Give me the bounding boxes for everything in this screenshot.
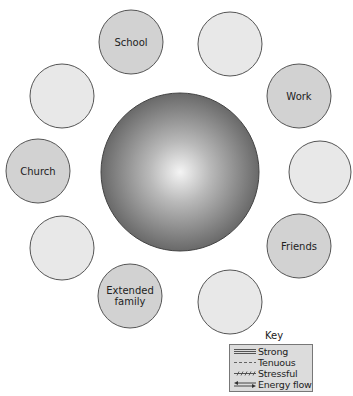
strong-line-icon (233, 347, 257, 356)
node-work: Work (267, 64, 331, 128)
key-legend: Strong Tenuous Stressful Energy flow (229, 344, 313, 392)
tenuous-line-icon (233, 358, 257, 367)
key-item-stressful: Stressful (233, 368, 297, 379)
node-extended-family: Extendedfamily (98, 264, 162, 328)
ecomap-diagram: SchoolWorkFriendsExtendedfamilyChurch (0, 0, 353, 396)
node-label: School (114, 37, 147, 48)
node-label: Work (286, 91, 312, 102)
node-blank-bottom-right (198, 270, 262, 334)
key-label-strong: Strong (258, 346, 288, 357)
key-item-strong: Strong (233, 346, 288, 357)
energy-flow-arrow-icon (233, 380, 257, 389)
key-label-stressful: Stressful (258, 368, 297, 379)
key-title: Key (265, 330, 283, 341)
node-circle (30, 64, 94, 128)
key-label-tenuous: Tenuous (258, 357, 295, 368)
node-circle (198, 12, 262, 76)
node-school: School (99, 10, 163, 74)
node-blank-bottom-left (30, 216, 94, 280)
node-friends: Friends (267, 214, 331, 278)
node-circle (289, 141, 351, 203)
node-circle (198, 270, 262, 334)
node-label: family (115, 296, 146, 307)
key-label-energy-flow: Energy flow (258, 379, 312, 390)
node-blank-top-right (198, 12, 262, 76)
key-item-energy-flow: Energy flow (233, 379, 312, 390)
stressful-line-icon (233, 369, 257, 378)
node-circle (30, 216, 94, 280)
center-family-circle (101, 93, 259, 251)
node-label: Church (20, 166, 55, 177)
node-blank-right (289, 141, 351, 203)
node-label: Extended (106, 285, 154, 296)
key-item-tenuous: Tenuous (233, 357, 295, 368)
node-blank-top-left (30, 64, 94, 128)
node-label: Friends (281, 241, 317, 252)
node-church: Church (6, 139, 70, 203)
